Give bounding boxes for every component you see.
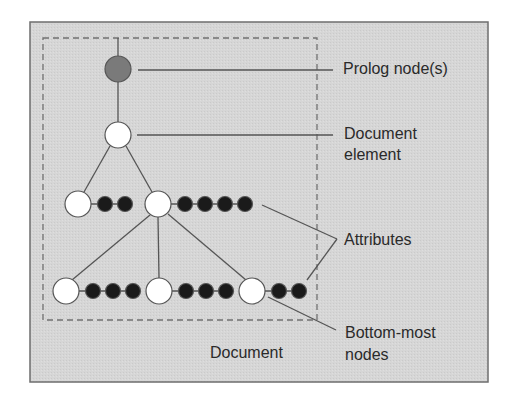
attribute-node — [218, 197, 233, 212]
attribute-node — [178, 197, 193, 212]
attribute-node — [272, 284, 287, 299]
label-attributes: Attributes — [344, 230, 412, 250]
attribute-node — [179, 284, 194, 299]
label-bottom-most-2: nodes — [345, 345, 389, 365]
element-node — [65, 191, 91, 217]
element-node — [239, 278, 265, 304]
label-document: Document — [210, 343, 283, 363]
label-document-element-1: Document — [344, 124, 417, 144]
element-node — [146, 278, 172, 304]
attribute-node — [118, 197, 133, 212]
attribute-node — [126, 284, 141, 299]
attribute-node — [219, 284, 234, 299]
attribute-node — [106, 284, 121, 299]
attribute-node — [292, 284, 307, 299]
label-prolog-nodes: Prolog node(s) — [343, 59, 448, 79]
document-element-node — [105, 122, 131, 148]
attribute-node — [198, 197, 213, 212]
attribute-node — [199, 284, 214, 299]
prolog-node — [105, 56, 131, 82]
element-node — [53, 278, 79, 304]
attribute-node — [98, 197, 113, 212]
element-node — [145, 191, 171, 217]
attribute-node — [86, 284, 101, 299]
label-bottom-most-1: Bottom-most — [345, 323, 436, 343]
attribute-node — [238, 197, 253, 212]
label-document-element-2: element — [344, 145, 401, 165]
